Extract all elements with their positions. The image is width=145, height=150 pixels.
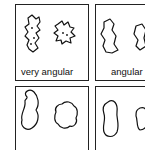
very-angular-grain-1 (25, 15, 40, 52)
rounded-grain-2 (136, 108, 145, 130)
subrounded-grain-2 (55, 102, 78, 128)
label-very-angular: very angular (21, 66, 73, 77)
angular-grain-1 (101, 19, 118, 53)
very-angular-grain-2 (54, 21, 75, 44)
subrounded-grain-1 (22, 90, 39, 129)
label-angular: angular (111, 66, 143, 77)
rounded-grain-1 (103, 101, 118, 137)
angular-grain-2 (134, 24, 145, 50)
